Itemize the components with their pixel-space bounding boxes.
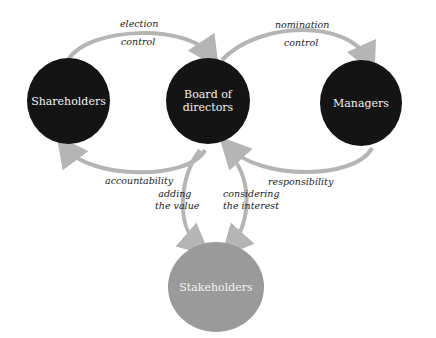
label-considering-interest: consideringthe interest — [223, 188, 280, 212]
label-nomination: nomination — [275, 19, 329, 31]
label-election: election — [120, 18, 158, 30]
node-label: Board ofdirectors — [183, 88, 233, 114]
node-board-of-directors: Board ofdirectors — [166, 58, 250, 144]
arrow-accountability — [66, 148, 205, 172]
node-shareholders: Shareholders — [27, 58, 110, 144]
node-label: Shareholders — [31, 95, 106, 108]
label-control-left: control — [121, 36, 155, 48]
node-managers: Managers — [320, 60, 402, 146]
arrow-responsibility — [230, 148, 372, 172]
label-accountability: accountability — [105, 175, 173, 187]
label-control-right: control — [284, 37, 318, 49]
node-stakeholders: Stakeholders — [168, 242, 264, 332]
label-responsibility: responsibility — [268, 176, 333, 188]
label-adding-value: addingthe value — [155, 188, 199, 212]
node-label: Managers — [333, 97, 389, 110]
node-label: Stakeholders — [179, 281, 252, 294]
